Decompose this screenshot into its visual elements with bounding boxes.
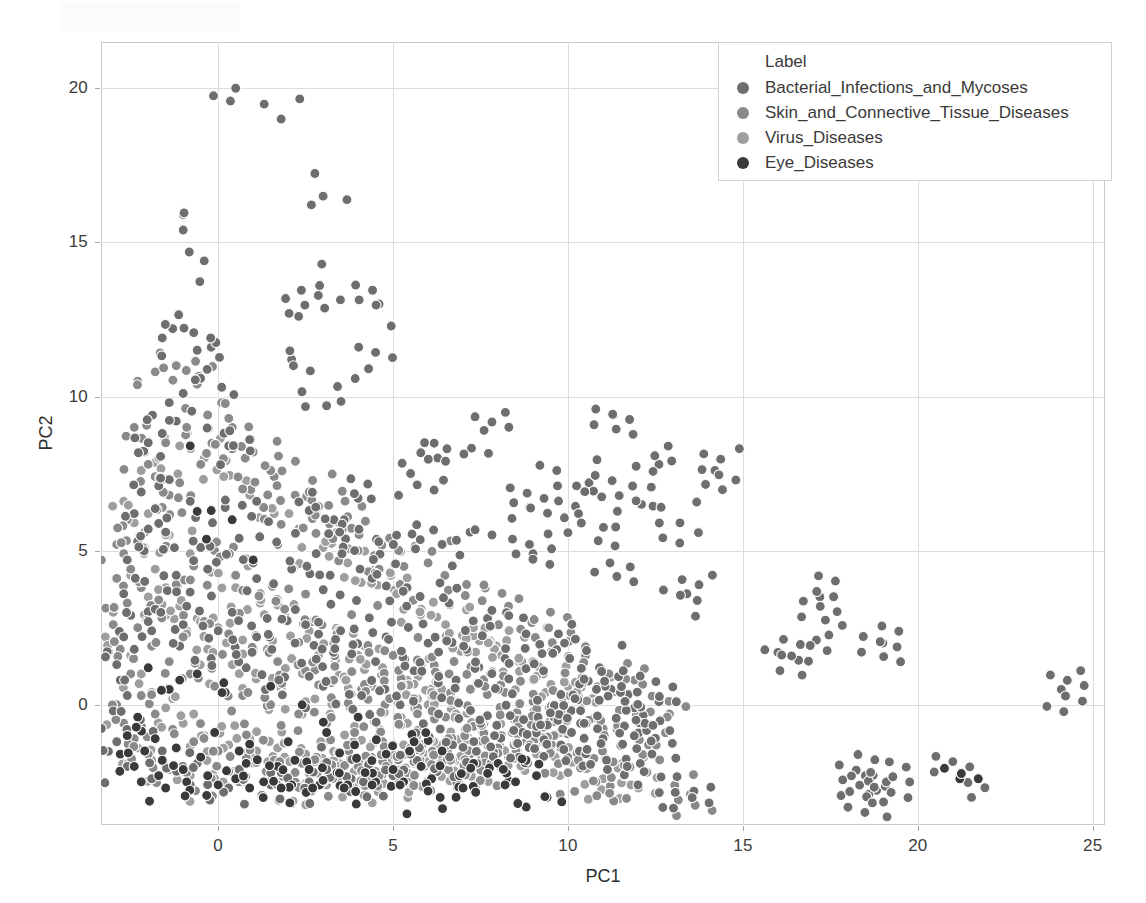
legend-entries: Bacterial_Infections_and_MycosesSkin_and… (733, 75, 1099, 175)
legend-item-label: Bacterial_Infections_and_Mycoses (765, 78, 1028, 98)
y-axis-label: PC2 (36, 415, 57, 450)
scatter-plot-figure: 051015202505101520 PC1 PC2 Label Bacteri… (0, 0, 1146, 903)
legend-item[interactable]: Bacterial_Infections_and_Mycoses (733, 75, 1099, 100)
x-tick-label: 25 (1083, 836, 1102, 856)
y-tick-label: 5 (0, 541, 88, 561)
legend-item-label: Skin_and_Connective_Tissue_Diseases (765, 103, 1069, 123)
tick-mark-x (918, 826, 919, 831)
x-axis-label: PC1 (585, 866, 620, 887)
legend-marker-icon (737, 157, 749, 169)
legend-title: Label (765, 52, 1099, 72)
tick-mark-x (743, 826, 744, 831)
y-tick-label: 20 (0, 78, 88, 98)
tick-mark-y (95, 88, 100, 89)
tick-mark-x (1093, 826, 1094, 831)
x-tick-label: 10 (558, 836, 577, 856)
legend-item[interactable]: Virus_Diseases (733, 125, 1099, 150)
tick-mark-x (568, 826, 569, 831)
x-tick-label: 5 (388, 836, 398, 856)
scan-artifact (60, 2, 240, 32)
tick-mark-y (95, 705, 100, 706)
legend-marker-icon (737, 132, 749, 144)
legend-marker-icon (737, 107, 749, 119)
y-tick-label: 10 (0, 387, 88, 407)
y-tick-label: 15 (0, 232, 88, 252)
legend-item[interactable]: Eye_Diseases (733, 150, 1099, 175)
tick-mark-y (95, 551, 100, 552)
x-tick-label: 20 (908, 836, 927, 856)
tick-mark-x (393, 826, 394, 831)
legend: Label Bacterial_Infections_and_MycosesSk… (718, 42, 1112, 181)
tick-mark-y (95, 397, 100, 398)
y-tick-label: 0 (0, 695, 88, 715)
legend-item-label: Virus_Diseases (765, 128, 883, 148)
x-tick-label: 0 (213, 836, 223, 856)
legend-item-label: Eye_Diseases (765, 153, 874, 173)
legend-item[interactable]: Skin_and_Connective_Tissue_Diseases (733, 100, 1099, 125)
x-tick-label: 15 (733, 836, 752, 856)
legend-marker-icon (737, 82, 749, 94)
tick-mark-y (95, 242, 100, 243)
tick-mark-x (218, 826, 219, 831)
